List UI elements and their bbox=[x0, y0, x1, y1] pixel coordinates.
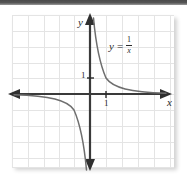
curve-branch-negative bbox=[14, 95, 87, 170]
curve-branch-positive bbox=[94, 18, 167, 93]
plot-area bbox=[0, 0, 187, 176]
graph-figure: y x 1 1 y = 1 x bbox=[0, 0, 187, 176]
y-axis bbox=[85, 13, 95, 171]
